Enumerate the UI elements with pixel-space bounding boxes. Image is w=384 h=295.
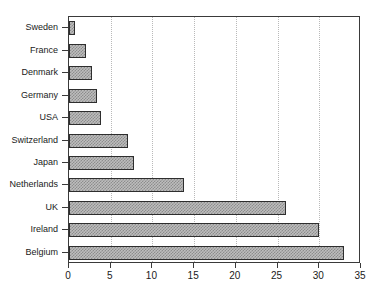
x-tick-mark-15 xyxy=(193,263,194,268)
x-tick-label-15: 15 xyxy=(181,270,205,281)
bar-germany xyxy=(69,89,97,103)
bar-belgium xyxy=(69,246,344,260)
bar-ireland xyxy=(69,223,319,237)
y-tick-mark-japan xyxy=(62,162,68,163)
x-tick-label-20: 20 xyxy=(223,270,247,281)
x-tick-mark-25 xyxy=(277,263,278,268)
y-tick-label-switzerland: Switzerland xyxy=(11,135,58,145)
x-tick-mark-35 xyxy=(360,263,361,268)
bar-sweden xyxy=(69,21,75,35)
y-tick-label-germany: Germany xyxy=(21,90,58,100)
plot-area xyxy=(68,16,360,263)
bar-usa xyxy=(69,111,101,125)
y-tick-mark-netherlands xyxy=(62,184,68,185)
y-tick-label-uk: UK xyxy=(45,202,58,212)
bar-switzerland xyxy=(69,134,128,148)
bar-netherlands xyxy=(69,178,184,192)
x-tick-mark-10 xyxy=(151,263,152,268)
y-tick-label-france: France xyxy=(30,45,58,55)
y-tick-label-denmark: Denmark xyxy=(21,67,58,77)
y-tick-label-sweden: Sweden xyxy=(25,22,58,32)
y-tick-mark-germany xyxy=(62,95,68,96)
y-tick-mark-denmark xyxy=(62,72,68,73)
y-tick-label-ireland: Ireland xyxy=(30,224,58,234)
bar-uk xyxy=(69,201,286,215)
x-tick-mark-5 xyxy=(110,263,111,268)
y-tick-mark-ireland xyxy=(62,229,68,230)
y-tick-label-japan: Japan xyxy=(33,157,58,167)
x-tick-label-30: 30 xyxy=(306,270,330,281)
x-tick-label-10: 10 xyxy=(139,270,163,281)
y-tick-mark-sweden xyxy=(62,27,68,28)
x-tick-label-0: 0 xyxy=(56,270,80,281)
bars-layer xyxy=(69,17,359,262)
y-tick-mark-france xyxy=(62,50,68,51)
bar-denmark xyxy=(69,66,92,80)
y-tick-mark-switzerland xyxy=(62,140,68,141)
x-tick-label-25: 25 xyxy=(265,270,289,281)
bar-france xyxy=(69,44,86,58)
y-tick-mark-usa xyxy=(62,117,68,118)
bar-japan xyxy=(69,156,134,170)
x-tick-label-35: 35 xyxy=(348,270,372,281)
x-tick-mark-20 xyxy=(235,263,236,268)
y-tick-mark-uk xyxy=(62,207,68,208)
y-tick-label-netherlands: Netherlands xyxy=(9,179,58,189)
x-tick-mark-30 xyxy=(318,263,319,268)
horizontal-bar-chart: SwedenFranceDenmarkGermanyUSASwitzerland… xyxy=(0,0,384,295)
y-tick-label-belgium: Belgium xyxy=(25,247,58,257)
x-tick-mark-0 xyxy=(68,263,69,268)
y-tick-label-usa: USA xyxy=(39,112,58,122)
y-tick-mark-belgium xyxy=(62,252,68,253)
x-tick-label-5: 5 xyxy=(98,270,122,281)
